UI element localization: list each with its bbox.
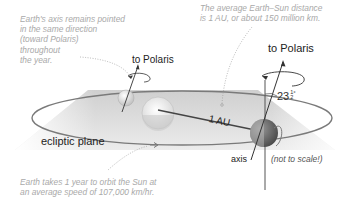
axis-note: Earth's axis remains pointed in the same… <box>20 14 125 65</box>
tilt-whole: 23 <box>277 90 289 102</box>
to-polaris-label-right: to Polaris <box>268 42 314 54</box>
tilt-degree: ° <box>293 90 295 96</box>
not-to-scale-note: (not to scale!) <box>271 154 323 164</box>
rotation-arrow-icon <box>262 72 304 86</box>
ecliptic-plane-label: ecliptic plane <box>41 135 105 147</box>
polaris-arrow-icon <box>281 60 286 67</box>
orbit-note: Earth takes 1 year to orbit the Sun at a… <box>20 177 156 197</box>
distance-note: The average Earth–Sun distance is 1 AU, … <box>200 3 322 23</box>
tilt-angle-label: 2312° <box>277 90 296 102</box>
sun <box>142 97 174 131</box>
earth-left <box>118 90 134 106</box>
to-polaris-label-left: to Polaris <box>132 54 174 65</box>
axis-label: axis <box>231 154 247 164</box>
